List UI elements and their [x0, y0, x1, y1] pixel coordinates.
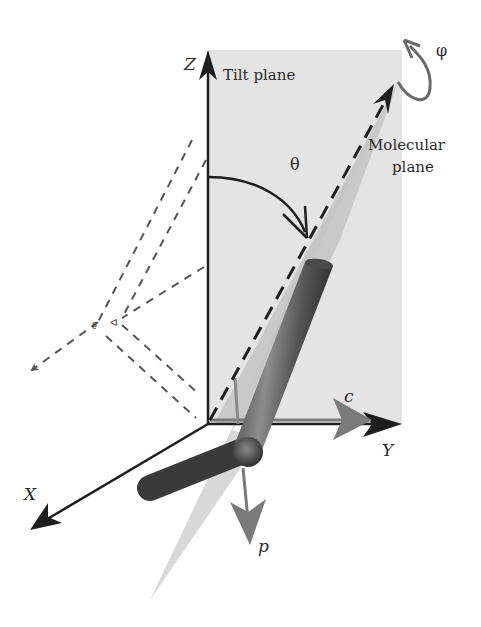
molecular-plane-label-line2: plane: [392, 158, 434, 176]
p-vector-label: p: [258, 536, 269, 556]
x-axis-arrowhead: [30, 503, 62, 530]
z-axis-label: Z: [183, 54, 197, 74]
molecule-joint: [233, 437, 263, 467]
projection-marker-b: ᐊ: [110, 317, 118, 328]
phi-label: φ: [436, 41, 447, 60]
tilt-plane-label: Tilt plane: [223, 66, 295, 84]
projection-dashes: [32, 140, 206, 418]
x-axis-label: X: [22, 484, 37, 504]
phi-rotation-arrow: [398, 46, 430, 100]
theta-label: θ: [290, 155, 300, 174]
c-vector-label: c: [344, 386, 354, 406]
smectic-tilt-diagram: ʂ ᐊ Z Tilt plane Y X c θ φ Molecular pla…: [0, 0, 481, 627]
projection-marker-a: ʂ: [92, 318, 97, 329]
molecular-plane-label-line1: Molecular: [368, 136, 446, 154]
y-axis-label: Y: [382, 440, 395, 460]
